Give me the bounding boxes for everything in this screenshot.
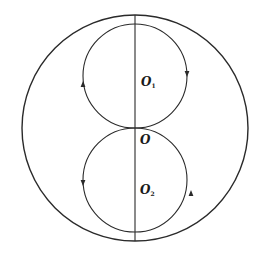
label-o: O: [140, 134, 150, 146]
label-o1-main: O: [141, 75, 151, 89]
circles-diagram: [0, 0, 264, 260]
arrow-down-icon: [81, 180, 86, 186]
label-o1: O1: [141, 76, 156, 89]
arrow-down-icon: [185, 71, 190, 77]
label-o-main: O: [140, 133, 150, 147]
label-o2-main: O: [140, 183, 150, 197]
arrow-up-icon: [81, 81, 86, 87]
label-o2-sub: 2: [150, 190, 154, 197]
label-o2: O2: [140, 184, 155, 197]
label-o1-sub: 1: [151, 82, 155, 89]
arrow-up-icon: [189, 190, 194, 196]
